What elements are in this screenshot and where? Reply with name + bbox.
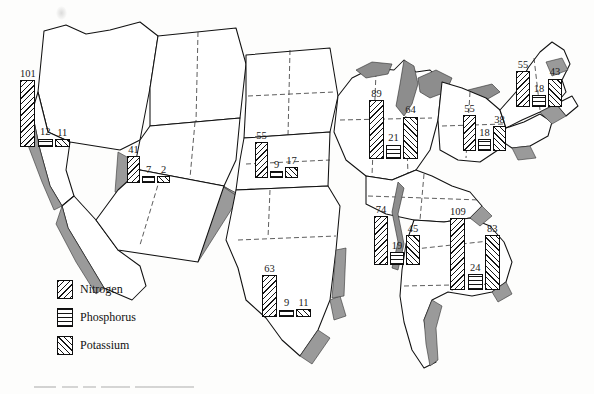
bar-group-southeast: 1092483 bbox=[450, 204, 500, 290]
bar-item-southeast-phosphorus: 24 bbox=[468, 263, 483, 290]
bar-item-southern-plains-nitrogen: 63 bbox=[262, 264, 277, 317]
bar-item-northeast-potassium: 43 bbox=[548, 67, 562, 107]
bar-group-mountain: 4172 bbox=[127, 142, 170, 183]
legend-item-potassium: Potassium bbox=[57, 333, 136, 358]
bar-phosphorus bbox=[38, 139, 53, 147]
bar-value-label: 7 bbox=[146, 165, 151, 176]
bar-item-great-lakes-east-potassium: 38 bbox=[493, 115, 506, 152]
bar-value-label: 101 bbox=[20, 69, 36, 80]
bar-value-label: 9 bbox=[274, 160, 279, 171]
bar-item-corn-belt-nitrogen: 89 bbox=[369, 89, 384, 159]
bar-nitrogen bbox=[374, 216, 388, 265]
bar-item-northeast-nitrogen: 55 bbox=[516, 60, 530, 108]
legend-label-nitrogen: Nitrogen bbox=[80, 282, 123, 297]
bar-phosphorus bbox=[386, 145, 401, 159]
bar-group-corn-belt: 892164 bbox=[369, 86, 418, 159]
bar-item-appalachian-phosphorus: 19 bbox=[390, 241, 404, 265]
bar-item-pacific-phosphorus: 12 bbox=[38, 127, 53, 146]
bar-item-northern-plains-potassium: 17 bbox=[285, 156, 298, 179]
bar-potassium bbox=[55, 139, 70, 146]
bar-phosphorus bbox=[468, 274, 483, 290]
bar-nitrogen bbox=[255, 142, 268, 178]
bar-item-mountain-nitrogen: 41 bbox=[127, 145, 140, 184]
bar-item-mountain-phosphorus: 7 bbox=[142, 165, 155, 184]
bar-item-mountain-potassium: 2 bbox=[157, 165, 170, 184]
bar-item-appalachian-potassium: 45 bbox=[406, 224, 420, 265]
bar-phosphorus bbox=[142, 176, 155, 183]
bar-value-label: 11 bbox=[57, 128, 67, 139]
legend: Nitrogen Phosphorus Potassium bbox=[57, 277, 136, 361]
bar-value-label: 64 bbox=[405, 105, 416, 116]
bar-phosphorus bbox=[532, 95, 546, 107]
bar-value-label: 55 bbox=[518, 60, 529, 71]
bar-item-southeast-potassium: 83 bbox=[485, 224, 500, 290]
bar-item-northern-plains-phosphorus: 9 bbox=[270, 160, 283, 179]
bar-value-label: 18 bbox=[534, 84, 545, 95]
bar-value-label: 18 bbox=[479, 128, 490, 139]
bar-item-northern-plains-nitrogen: 55 bbox=[255, 131, 268, 179]
bar-value-label: 17 bbox=[286, 156, 297, 167]
bar-nitrogen bbox=[450, 218, 465, 290]
bar-value-label: 38 bbox=[494, 115, 505, 126]
bar-phosphorus bbox=[390, 252, 404, 265]
bar-value-label: 24 bbox=[470, 263, 481, 274]
bar-group-pacific: 1011211 bbox=[20, 66, 70, 147]
bar-value-label: 19 bbox=[392, 241, 403, 252]
bar-nitrogen bbox=[463, 115, 476, 151]
bar-value-label: 41 bbox=[128, 145, 139, 156]
bar-group-appalachian: 741945 bbox=[374, 202, 420, 265]
legend-item-phosphorus: Phosphorus bbox=[57, 305, 136, 330]
bar-value-label: 55 bbox=[256, 131, 267, 142]
caption-sliver bbox=[34, 386, 194, 388]
figure-map-with-bar-charts: .land{fill:#ffffff;stroke:#111111;stroke… bbox=[0, 0, 594, 394]
bar-value-label: 89 bbox=[371, 89, 382, 100]
bar-item-pacific-nitrogen: 101 bbox=[20, 69, 36, 147]
bar-potassium bbox=[296, 309, 311, 316]
bar-value-label: 9 bbox=[284, 298, 289, 309]
bar-group-northern-plains: 55917 bbox=[255, 128, 298, 178]
bar-value-label: 21 bbox=[388, 133, 399, 144]
legend-swatch-phosphorus bbox=[57, 308, 73, 327]
bar-potassium bbox=[285, 167, 298, 178]
legend-item-nitrogen: Nitrogen bbox=[57, 277, 136, 302]
bar-item-southeast-nitrogen: 109 bbox=[450, 207, 466, 290]
bar-value-label: 45 bbox=[408, 224, 419, 235]
bar-value-label: 43 bbox=[550, 67, 561, 78]
bar-item-pacific-potassium: 11 bbox=[55, 128, 70, 147]
bar-potassium bbox=[485, 235, 500, 290]
bar-potassium bbox=[548, 79, 562, 107]
bar-nitrogen bbox=[516, 71, 530, 107]
scan-artifact bbox=[56, 6, 67, 20]
region-northern-plains bbox=[244, 48, 338, 138]
bar-value-label: 12 bbox=[40, 127, 51, 138]
bar-item-northeast-phosphorus: 18 bbox=[532, 84, 546, 107]
legend-swatch-potassium bbox=[57, 336, 73, 355]
bar-potassium bbox=[493, 126, 506, 151]
bar-item-great-lakes-east-phosphorus: 18 bbox=[478, 128, 491, 151]
bar-item-great-lakes-east-nitrogen: 55 bbox=[463, 104, 476, 152]
bar-value-label: 11 bbox=[298, 298, 308, 309]
bar-value-label: 109 bbox=[450, 207, 466, 218]
legend-label-phosphorus: Phosphorus bbox=[80, 310, 136, 325]
bar-nitrogen bbox=[369, 100, 384, 159]
bar-nitrogen bbox=[262, 275, 277, 317]
bar-potassium bbox=[406, 235, 420, 265]
bar-item-corn-belt-phosphorus: 21 bbox=[386, 133, 401, 158]
bar-phosphorus bbox=[478, 139, 491, 151]
bar-group-southern-plains: 63911 bbox=[262, 261, 311, 317]
bar-value-label: 2 bbox=[161, 165, 166, 176]
bar-phosphorus bbox=[270, 171, 283, 178]
bar-potassium bbox=[157, 176, 170, 183]
bar-value-label: 55 bbox=[464, 104, 475, 115]
legend-label-potassium: Potassium bbox=[80, 338, 129, 353]
legend-swatch-nitrogen bbox=[57, 280, 73, 299]
bar-group-northeast: 551843 bbox=[516, 57, 562, 107]
bar-nitrogen bbox=[20, 80, 35, 147]
bar-value-label: 83 bbox=[487, 224, 498, 235]
bar-item-corn-belt-potassium: 64 bbox=[403, 105, 418, 159]
bar-value-label: 74 bbox=[376, 205, 387, 216]
cut-off-caption bbox=[0, 384, 594, 394]
shadow-coast-ma bbox=[512, 146, 536, 160]
bar-nitrogen bbox=[127, 156, 140, 183]
bar-item-appalachian-nitrogen: 74 bbox=[374, 205, 388, 265]
